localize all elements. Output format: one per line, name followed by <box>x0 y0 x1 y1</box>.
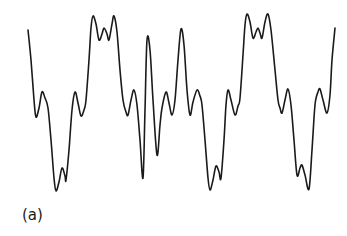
panel-label: (a) <box>22 206 43 224</box>
waveform-plot <box>0 0 347 236</box>
waveform-line <box>28 14 335 191</box>
